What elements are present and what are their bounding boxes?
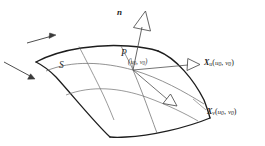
param-close: ) bbox=[145, 58, 147, 66]
surface-text: S bbox=[59, 60, 64, 70]
point-p-label: P bbox=[121, 49, 127, 59]
patch-edge-right-upper bbox=[158, 51, 210, 118]
direction-arrow-bottom-head bbox=[28, 74, 35, 79]
tangent-u-arrowhead bbox=[187, 59, 200, 71]
patch-edge-bottom bbox=[110, 118, 210, 137]
tangent-v-label: Xv(u0, v0) bbox=[207, 108, 236, 117]
normal-vector-label: n bbox=[117, 8, 122, 17]
figure-canvas bbox=[0, 0, 265, 146]
tangent-v-param-close: ) bbox=[234, 107, 237, 116]
tangent-v-arrowhead bbox=[163, 94, 177, 106]
point-p-text: P bbox=[121, 48, 127, 58]
tangent-u-label: Xu(u0, v0) bbox=[204, 59, 234, 68]
direction-arrow-top-shaft bbox=[27, 36, 52, 43]
surface-patch-figure: n S P (u0, v0) Xu(u0, v0) Xv(u0, v0) bbox=[0, 0, 265, 146]
surface-label: S bbox=[59, 61, 64, 71]
grid-curve-u-lower bbox=[66, 89, 198, 121]
patch-edge-left-lower bbox=[36, 62, 110, 137]
normal-vector-text: n bbox=[117, 7, 122, 17]
point-parameters-label: (u0, v0) bbox=[128, 59, 147, 66]
grid-curve-u-through-p bbox=[46, 63, 204, 104]
direction-arrow-top-head bbox=[49, 33, 56, 38]
tangent-u-param-close: ) bbox=[231, 58, 234, 67]
direction-arrow-bottom-shaft bbox=[4, 62, 30, 76]
